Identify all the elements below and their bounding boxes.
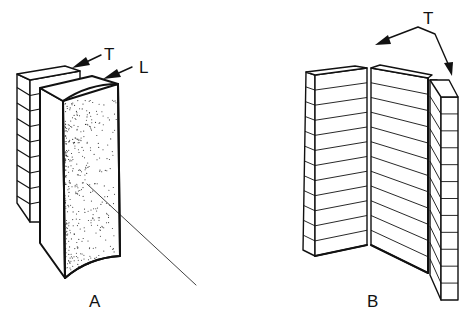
stipple-dot — [90, 147, 91, 148]
stipple-dot — [106, 170, 107, 171]
stipple-dot — [75, 193, 76, 194]
stipple-dot — [92, 191, 93, 192]
stipple-dot — [97, 114, 98, 115]
arrow-head-down-icon — [444, 62, 453, 76]
stipple-dot — [72, 117, 73, 118]
stipple-dot — [83, 196, 84, 197]
stipple-dot — [79, 139, 80, 140]
stipple-dot — [65, 208, 66, 209]
stipple-dot — [112, 249, 113, 250]
stipple-dot — [68, 241, 69, 242]
stipple-dot — [75, 138, 76, 139]
stipple-dot — [90, 222, 91, 223]
stipple-dot — [89, 101, 90, 102]
stipple-dot — [65, 124, 66, 125]
stipple-dot — [65, 200, 66, 201]
stipple-dot — [100, 204, 101, 205]
stipple-dot — [65, 136, 66, 137]
stipple-dot — [112, 100, 113, 101]
stipple-dot — [69, 109, 70, 110]
stipple-dot — [87, 142, 88, 143]
stipple-dot — [76, 111, 77, 112]
stipple-dot — [113, 203, 114, 204]
stipple-dot — [82, 253, 83, 254]
stipple-dot — [74, 145, 75, 146]
stipple-dot — [108, 222, 109, 223]
figure-b-middle-panel — [371, 65, 432, 273]
stipple-dot — [74, 248, 75, 249]
stipple-dot — [70, 232, 71, 233]
stipple-dot — [64, 141, 65, 142]
figure-b-left-panel — [303, 66, 367, 256]
stipple-dot — [78, 174, 79, 175]
stipple-dot — [68, 192, 69, 193]
stipple-dot — [96, 135, 97, 136]
stipple-dot — [66, 166, 67, 167]
stipple-dot — [112, 132, 113, 133]
stipple-dot — [72, 258, 73, 259]
stipple-dot — [73, 142, 74, 143]
stipple-dot — [103, 115, 104, 116]
stipple-dot — [68, 166, 69, 167]
stipple-dot — [98, 217, 99, 218]
stipple-dot — [68, 186, 69, 187]
stipple-dot — [86, 120, 87, 121]
stipple-dot — [77, 257, 78, 258]
stipple-dot — [97, 225, 98, 226]
stipple-dot — [114, 194, 115, 195]
stipple-dot — [101, 171, 102, 172]
stipple-dot — [77, 139, 78, 140]
stipple-dot — [103, 227, 104, 228]
stipple-dot — [76, 219, 77, 220]
stipple-dot — [75, 186, 76, 187]
stipple-dot — [74, 105, 75, 106]
stipple-dot — [89, 112, 90, 113]
stipple-dot — [110, 246, 111, 247]
stipple-dot — [86, 173, 87, 174]
stipple-dot — [64, 131, 65, 132]
stipple-dot — [71, 160, 72, 161]
stipple-dot — [82, 182, 83, 183]
stipple-dot — [71, 256, 72, 257]
stipple-dot — [89, 166, 90, 167]
stipple-dot — [87, 167, 88, 168]
stipple-dot — [69, 128, 70, 129]
label-t-a: T — [104, 45, 114, 64]
stipple-dot — [114, 251, 115, 252]
stipple-dot — [80, 131, 81, 132]
stipple-dot — [116, 119, 117, 120]
left-panel-front — [315, 68, 367, 256]
stipple-dot — [69, 161, 70, 162]
stipple-dot — [113, 235, 114, 236]
stipple-dot — [72, 266, 73, 267]
stipple-dot — [77, 264, 78, 265]
stipple-dot — [65, 143, 66, 144]
stipple-dot — [65, 153, 66, 154]
stipple-dot — [113, 187, 114, 188]
stipple-dot — [66, 231, 67, 232]
stipple-dot — [81, 147, 82, 148]
stipple-dot — [67, 205, 68, 206]
stipple-dot — [79, 108, 80, 109]
stipple-dot — [87, 240, 88, 241]
stipple-dot — [72, 170, 73, 171]
stipple-dot — [76, 213, 77, 214]
stipple-dot — [101, 111, 102, 112]
stipple-dot — [72, 139, 73, 140]
stipple-dot — [65, 224, 66, 225]
stipple-dot — [65, 158, 66, 159]
stipple-dot — [107, 214, 108, 215]
stipple-dot — [65, 176, 66, 177]
stipple-dot — [98, 147, 99, 148]
stipple-dot — [72, 159, 73, 160]
diagram-canvas: T L A — [0, 0, 472, 319]
stipple-dot — [70, 269, 71, 270]
stipple-dot — [77, 100, 78, 101]
stipple-dot — [90, 126, 91, 127]
stipple-dot — [66, 152, 67, 153]
stipple-dot — [92, 102, 93, 103]
label-l-a: L — [139, 58, 148, 77]
stipple-dot — [66, 128, 67, 129]
stipple-dot — [99, 170, 100, 171]
stipple-dot — [79, 115, 80, 116]
